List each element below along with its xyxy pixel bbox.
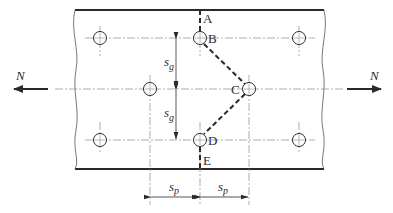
staggered-bolt-plate-diagram: A B C D E N N sg sg sp sp (0, 0, 393, 213)
pitch-dimension: sp sp (151, 179, 248, 197)
centerlines (55, 26, 345, 205)
point-label-c: C (231, 82, 240, 97)
point-label-d: D (208, 133, 217, 148)
pitch-label-right: sp (218, 179, 228, 196)
plate-right-break-line (322, 10, 326, 169)
force-label-left: N (15, 68, 26, 83)
point-label-a: A (203, 11, 213, 26)
gauge-label-upper: sg (164, 54, 174, 72)
plate-left-break-line (74, 10, 78, 169)
gauge-label-lower: sg (164, 105, 174, 123)
point-label-b: B (208, 31, 217, 46)
force-label-right: N (369, 68, 380, 83)
path-segment-bc (204, 44, 245, 84)
point-label-e: E (203, 153, 211, 168)
pitch-label-left: sp (169, 179, 179, 196)
path-segment-cd (204, 94, 245, 134)
